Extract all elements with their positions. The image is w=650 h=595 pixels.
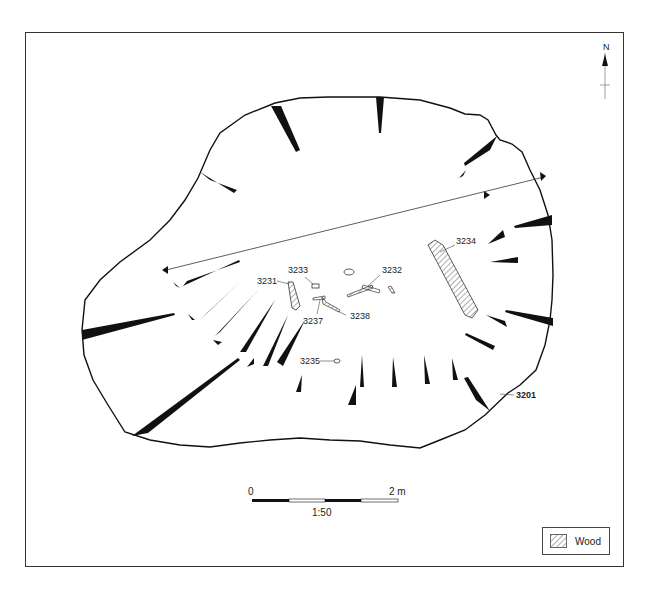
scale-ratio-label: 1:50	[312, 507, 332, 518]
section-end-marker	[540, 172, 546, 181]
scale-start-label: 0	[248, 486, 254, 497]
scale-bar: 0 2 m 1:50	[248, 486, 406, 518]
wood-hatch-swatch-icon	[550, 534, 567, 548]
legend-label-wood: Wood	[575, 536, 601, 547]
section-end-marker	[162, 266, 168, 274]
label-3201: 3201	[516, 390, 536, 400]
section-line	[166, 177, 544, 270]
label-3235: 3235	[300, 356, 320, 366]
label-3238: 3238	[350, 311, 370, 321]
label-3231: 3231	[257, 276, 277, 286]
wood-3235	[334, 359, 340, 363]
label-3234: 3234	[456, 236, 476, 246]
label-3233: 3233	[288, 265, 308, 275]
wood-3234	[428, 240, 478, 318]
wood-objects	[288, 240, 478, 363]
scale-end-label: 2 m	[389, 486, 406, 497]
wood-3233	[312, 284, 319, 288]
hachures	[82, 97, 553, 436]
wood-3231	[288, 282, 300, 310]
plan-drawing: 3231 3232 3233 3234 3235 3237 3238 3201 …	[0, 0, 650, 595]
label-3232: 3232	[382, 265, 402, 275]
legend: Wood	[542, 527, 610, 555]
north-arrow: N	[600, 42, 610, 99]
label-3237: 3237	[303, 316, 323, 326]
north-label: N	[603, 42, 610, 52]
